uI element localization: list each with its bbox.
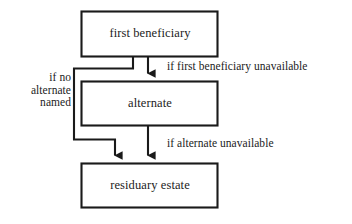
- edge-label-line-1: if no: [0, 71, 71, 84]
- edge-label-if-first-beneficiary-unavailable: if first beneficiary unavailable: [167, 60, 308, 73]
- edge-label-line-3: named: [0, 96, 71, 109]
- edge-label-if-alternate-unavailable: if alternate unavailable: [167, 137, 274, 150]
- node-label-alternate: alternate: [81, 96, 219, 110]
- edge-label-line-2: alternate: [0, 84, 71, 97]
- node-label-first-beneficiary: first beneficiary: [81, 26, 219, 40]
- node-label-residuary-estate: residuary estate: [81, 178, 219, 192]
- diagram-canvas: first beneficiary alternate residuary es…: [0, 0, 352, 224]
- edge-label-if-no-alternate-named: if no alternate named: [0, 71, 71, 109]
